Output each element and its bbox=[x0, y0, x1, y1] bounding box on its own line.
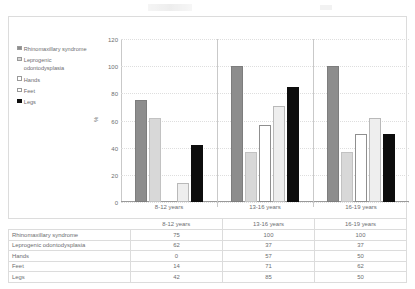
y-axis-title: % bbox=[93, 117, 99, 122]
bar-hands-13-16-years bbox=[259, 125, 271, 202]
bar-hands-16-19-years bbox=[355, 134, 367, 202]
table-row-label-legs: Legs bbox=[9, 272, 131, 283]
legend-item-feet: Feet bbox=[17, 87, 87, 95]
y-tick-120: 120 bbox=[108, 37, 118, 43]
table-row: Rhinomaxillary syndrome75100100 bbox=[9, 230, 407, 241]
x-label-8-12-years: 8-12 years bbox=[121, 204, 217, 210]
table-cell-hands-16-19-years: 50 bbox=[315, 251, 407, 262]
bar-legs-13-16-years bbox=[287, 87, 299, 202]
legend-swatch-leprogenic-odontodysplasia bbox=[17, 57, 22, 62]
bar-rhinomaxillary-syndrome-8-12-years bbox=[135, 100, 147, 202]
bar-legs-8-12-years bbox=[191, 145, 203, 202]
y-tick-0: 0 bbox=[115, 200, 118, 206]
y-tick-100: 100 bbox=[108, 64, 118, 70]
legend-label-feet: Feet bbox=[24, 87, 35, 95]
table-header-8-12-years: 8-12 years bbox=[131, 219, 223, 230]
scan-artifact bbox=[148, 4, 192, 11]
table-cell-legs-13-16-years: 85 bbox=[223, 272, 315, 283]
legend-label-leprogenic-odontodysplasia: Leprogenic odontodysplasia bbox=[24, 56, 87, 72]
table-header-16-19-years: 16-19 years bbox=[315, 219, 407, 230]
legend-swatch-legs bbox=[17, 99, 22, 104]
chart-frame: Rhinomaxillary syndrome Leprogenic odont… bbox=[8, 16, 407, 219]
table-cell-leprogenic-odontodysplasia-8-12-years: 62 bbox=[131, 240, 223, 251]
legend-item-legs: Legs bbox=[17, 98, 87, 106]
table-cell-leprogenic-odontodysplasia-13-16-years: 37 bbox=[223, 240, 315, 251]
table-cell-hands-13-16-years: 57 bbox=[223, 251, 315, 262]
bar-feet-13-16-years bbox=[273, 106, 285, 202]
bar-groups bbox=[121, 39, 409, 202]
table-row: Feet147162 bbox=[9, 261, 407, 272]
table-corner-cell bbox=[9, 219, 131, 230]
x-label-16-19-years: 16-19 years bbox=[313, 204, 409, 210]
legend-item-leprogenic-odontodysplasia: Leprogenic odontodysplasia bbox=[17, 56, 87, 72]
table-cell-legs-8-12-years: 42 bbox=[131, 272, 223, 283]
gridline-0: 0 bbox=[121, 202, 409, 203]
table-header-row: 8-12 years 13-16 years 16-19 years bbox=[9, 219, 407, 230]
legend-item-rhinomaxillary-syndrome: Rhinomaxillary syndrome bbox=[17, 45, 87, 53]
legend-label-hands: Hands bbox=[24, 76, 40, 84]
legend-label-rhinomaxillary-syndrome: Rhinomaxillary syndrome bbox=[24, 45, 87, 53]
y-tick-60: 60 bbox=[111, 119, 118, 125]
bar-rhinomaxillary-syndrome-13-16-years bbox=[231, 66, 243, 202]
y-tick-80: 80 bbox=[111, 91, 118, 97]
table-row: Leprogenic odontodysplasia623737 bbox=[9, 240, 407, 251]
chart-page: Rhinomaxillary syndrome Leprogenic odont… bbox=[0, 0, 415, 289]
table-cell-feet-16-19-years: 62 bbox=[315, 261, 407, 272]
table-body: Rhinomaxillary syndrome75100100Leprogeni… bbox=[9, 230, 407, 283]
table-cell-legs-16-19-years: 50 bbox=[315, 272, 407, 283]
bar-leprogenic-odontodysplasia-8-12-years bbox=[149, 118, 161, 202]
x-label-13-16-years: 13-16 years bbox=[217, 204, 313, 210]
bar-group-13-16-years bbox=[217, 39, 313, 202]
table-row-label-rhinomaxillary-syndrome: Rhinomaxillary syndrome bbox=[9, 230, 131, 241]
table-cell-leprogenic-odontodysplasia-16-19-years: 37 bbox=[315, 240, 407, 251]
bar-leprogenic-odontodysplasia-16-19-years bbox=[341, 152, 353, 202]
table-cell-feet-13-16-years: 71 bbox=[223, 261, 315, 272]
table-row-label-leprogenic-odontodysplasia: Leprogenic odontodysplasia bbox=[9, 240, 131, 251]
x-axis-labels: 8-12 years 13-16 years 16-19 years bbox=[121, 204, 409, 210]
y-tick-20: 20 bbox=[111, 173, 118, 179]
bar-leprogenic-odontodysplasia-13-16-years bbox=[245, 152, 257, 202]
scan-artifact-secondary bbox=[320, 5, 332, 10]
legend-swatch-feet bbox=[17, 88, 22, 93]
bar-feet-16-19-years bbox=[369, 118, 381, 202]
bar-rhinomaxillary-syndrome-16-19-years bbox=[327, 66, 339, 202]
bar-group-8-12-years bbox=[121, 39, 217, 202]
legend-swatch-hands bbox=[17, 76, 22, 81]
chart-legend: Rhinomaxillary syndrome Leprogenic odont… bbox=[17, 45, 87, 110]
data-table: 8-12 years 13-16 years 16-19 years Rhino… bbox=[8, 219, 407, 283]
table-cell-rhinomaxillary-syndrome-16-19-years: 100 bbox=[315, 230, 407, 241]
bar-legs-16-19-years bbox=[383, 134, 395, 202]
table-row: Legs428550 bbox=[9, 272, 407, 283]
table-cell-rhinomaxillary-syndrome-8-12-years: 75 bbox=[131, 230, 223, 241]
table-row-label-hands: Hands bbox=[9, 251, 131, 262]
table-row: Hands05750 bbox=[9, 251, 407, 262]
table-header-13-16-years: 13-16 years bbox=[223, 219, 315, 230]
legend-item-hands: Hands bbox=[17, 76, 87, 84]
y-tick-40: 40 bbox=[111, 146, 118, 152]
table-cell-rhinomaxillary-syndrome-13-16-years: 100 bbox=[223, 230, 315, 241]
legend-swatch-rhinomaxillary-syndrome bbox=[17, 46, 22, 51]
bar-feet-8-12-years bbox=[177, 183, 189, 202]
plot-area: 120 100 80 60 40 20 0 bbox=[121, 39, 409, 202]
table-cell-feet-8-12-years: 14 bbox=[131, 261, 223, 272]
table-cell-hands-8-12-years: 0 bbox=[131, 251, 223, 262]
bar-group-16-19-years bbox=[313, 39, 409, 202]
table-row-label-feet: Feet bbox=[9, 261, 131, 272]
legend-label-legs: Legs bbox=[24, 98, 36, 106]
